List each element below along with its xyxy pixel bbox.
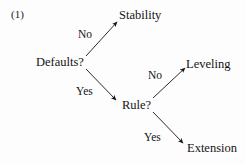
node-stability: Stability bbox=[119, 9, 161, 22]
edge-label-yes-defaults: Yes bbox=[76, 86, 93, 98]
edge-label-no-defaults: No bbox=[78, 29, 92, 41]
node-leveling: Leveling bbox=[186, 58, 230, 71]
edge-layer bbox=[0, 0, 245, 164]
node-extension: Extension bbox=[187, 142, 237, 155]
node-defaults: Defaults? bbox=[36, 56, 84, 69]
edge-label-yes-rule: Yes bbox=[144, 132, 161, 144]
node-rule: Rule? bbox=[122, 99, 151, 112]
edge-label-no-rule: No bbox=[148, 70, 162, 82]
decision-tree-figure: (1) Defaults? Stability Rule? Leveling E… bbox=[0, 0, 245, 164]
